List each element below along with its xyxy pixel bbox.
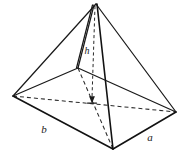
- lateral-edge-apex-back-accent: [77, 5, 93, 68]
- base-edge-left-back: [13, 68, 78, 96]
- base-edge-right-label: a: [147, 131, 153, 143]
- base-edge-left-label: b: [41, 123, 47, 135]
- height-label: h: [85, 45, 90, 56]
- lateral-edge-apex-front: [97, 4, 113, 149]
- pyramid-svg-canvas: h b a: [0, 0, 190, 156]
- pyramid-figure: h b a: [0, 0, 190, 156]
- base-edge-front-right: [113, 112, 176, 149]
- height-dashed-line: [92, 6, 95, 98]
- lateral-edge-apex-right: [96, 4, 176, 112]
